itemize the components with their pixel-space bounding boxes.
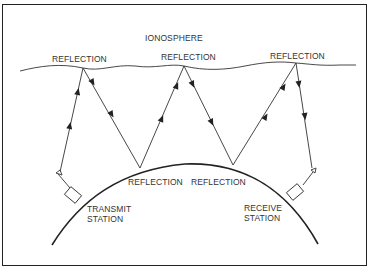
arrowheads xyxy=(66,78,308,130)
ray-paths xyxy=(60,63,312,172)
reflection-label-top-3: REFLECTION xyxy=(270,51,325,61)
reflection-label-ground-1: REFLECTION xyxy=(128,177,183,187)
ionosphere-label: IONOSPHERE xyxy=(145,33,203,43)
reflection-label-top-1: REFLECTION xyxy=(52,54,107,64)
reflection-label-top-2: REFLECTION xyxy=(161,52,216,62)
receive-antenna-icon xyxy=(286,168,316,200)
transmit-label-line2: STATION xyxy=(87,214,131,224)
receive-station-label: RECEIVE STATION xyxy=(244,203,282,223)
reflection-label-ground-2: REFLECTION xyxy=(191,177,246,187)
transmit-station-label: TRANSMIT STATION xyxy=(87,204,131,224)
transmit-antenna-icon xyxy=(56,170,82,203)
transmit-label-line1: TRANSMIT xyxy=(87,204,131,214)
receive-label-line2: STATION xyxy=(244,213,282,223)
receive-label-line1: RECEIVE xyxy=(244,203,282,213)
